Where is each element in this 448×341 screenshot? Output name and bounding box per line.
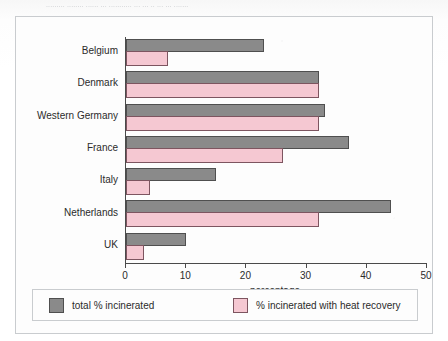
bar-heat-recovery (126, 83, 319, 98)
scanned-page: ......... ........ ...... ... ..........… (0, 0, 448, 341)
x-tick (185, 263, 186, 268)
x-tick (366, 263, 367, 268)
category-label: UK (104, 239, 118, 250)
bar-heat-recovery (126, 212, 319, 227)
chart-figure: BelgiumDenmarkWestern GermanyFranceItaly… (15, 16, 433, 334)
legend-swatch-total (49, 298, 64, 313)
bar-group: France (126, 136, 427, 164)
x-tick (245, 263, 246, 268)
page-top-caption-fragment: ......... ........ ...... ... ..........… (46, 0, 446, 9)
x-tick (426, 263, 427, 268)
x-tick (306, 263, 307, 268)
x-tick-label: 10 (180, 270, 191, 281)
x-tick-label: 40 (360, 270, 371, 281)
category-label: Netherlands (64, 207, 118, 218)
legend-item-total: total % incinerated (49, 298, 154, 313)
bar-group: Western Germany (126, 104, 427, 132)
legend-label-total: total % incinerated (72, 300, 154, 312)
category-label: France (87, 142, 118, 153)
bar-group: Italy (126, 168, 427, 196)
x-axis-line (125, 263, 426, 264)
legend-item-heat: % incinerated with heat recovery (233, 298, 401, 313)
bar-group: UK (126, 233, 427, 261)
legend-swatch-heat (233, 298, 248, 313)
x-tick-label: 20 (240, 270, 251, 281)
x-tick-label: 0 (122, 270, 128, 281)
bar-group: Denmark (126, 71, 427, 99)
bar-group: Netherlands (126, 200, 427, 228)
category-label: Italy (100, 174, 118, 185)
category-label: Denmark (77, 77, 118, 88)
bar-heat-recovery (126, 51, 168, 66)
bar-heat-recovery (126, 148, 283, 163)
bar-heat-recovery (126, 180, 150, 195)
legend-label-heat: % incinerated with heat recovery (256, 300, 401, 312)
category-label: Western Germany (37, 110, 118, 121)
bar-group: Belgium (126, 39, 427, 67)
plot-area: BelgiumDenmarkWestern GermanyFranceItaly… (125, 37, 441, 281)
x-tick (125, 263, 126, 268)
chart-legend: total % incinerated% incinerated with he… (32, 289, 418, 321)
x-tick-label: 30 (300, 270, 311, 281)
bar-heat-recovery (126, 245, 144, 260)
category-label: Belgium (82, 45, 118, 56)
bar-heat-recovery (126, 116, 319, 131)
x-tick-label: 50 (420, 270, 431, 281)
